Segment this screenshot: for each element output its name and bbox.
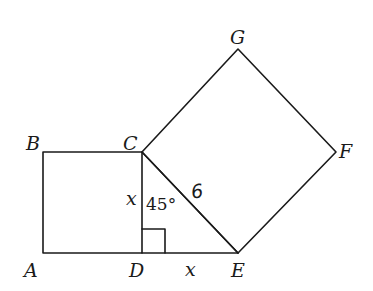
geometry-diagram: A B C D E F G x x 45° 6 — [0, 0, 373, 291]
vertex-label-g: G — [230, 26, 245, 48]
angle-label: 45° — [146, 194, 176, 214]
right-angle-marker — [142, 229, 165, 253]
vertex-label-e: E — [230, 259, 245, 281]
hypotenuse-label: 6 — [189, 179, 204, 202]
vertex-label-f: F — [338, 140, 353, 162]
vertex-label-d: D — [128, 259, 144, 281]
vertex-label-b: B — [25, 132, 40, 154]
vertex-label-c: C — [123, 132, 138, 154]
vertex-label-a: A — [22, 259, 38, 281]
side-de-label: x — [185, 258, 196, 280]
side-cd-label: x — [126, 187, 137, 209]
square-cefg — [142, 49, 336, 253]
